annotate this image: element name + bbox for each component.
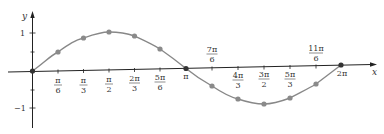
svg-text:π: π: [81, 76, 86, 85]
svg-text:2: 2: [106, 85, 111, 94]
x-tick-labels: π6 π3 π2 2π3 5π6 π 4π3 3π2 5π3 2π 7π6 11…: [54, 44, 347, 95]
tick-pi-3: π3: [80, 76, 88, 95]
svg-text:2π: 2π: [337, 69, 347, 78]
point-pi-6: [55, 49, 60, 54]
point-5pi-6: [157, 46, 162, 51]
svg-text:3: 3: [132, 84, 137, 93]
svg-text:π: π: [55, 76, 60, 85]
point-pi-3: [81, 35, 86, 40]
svg-text:11π: 11π: [308, 44, 323, 53]
tick-11pi-6: 11π6: [308, 44, 323, 63]
point-pi-2: [106, 29, 111, 34]
point-7pi-6: [209, 83, 214, 88]
tick-5pi-3: 5π3: [285, 70, 296, 89]
point-0: [30, 68, 35, 73]
x-axis: x: [8, 62, 377, 77]
svg-text:4π: 4π: [233, 71, 243, 80]
svg-text:3: 3: [235, 81, 240, 90]
point-2pi: [338, 62, 343, 67]
svg-text:7π: 7π: [207, 45, 217, 54]
svg-text:3: 3: [287, 80, 292, 89]
svg-text:5π: 5π: [285, 70, 295, 79]
svg-text:3π: 3π: [259, 70, 269, 79]
svg-text:2π: 2π: [129, 74, 139, 83]
point-5pi-3: [287, 95, 292, 100]
point-3pi-2: [261, 101, 266, 106]
y-axis-label: y: [21, 11, 28, 21]
tick-pi-6: π6: [54, 76, 62, 95]
svg-text:2: 2: [261, 80, 266, 89]
y-tick-neg1: −1: [14, 104, 26, 113]
svg-text:6: 6: [313, 54, 318, 63]
tick-2pi-3: 2π3: [129, 74, 140, 93]
point-4pi-3: [235, 96, 240, 101]
point-11pi-6: [313, 81, 318, 86]
svg-text:3: 3: [81, 86, 86, 95]
point-pi: [183, 66, 188, 71]
y-tick-1: 1: [20, 29, 25, 38]
tick-pi-2: π2: [105, 75, 113, 94]
svg-text:6: 6: [209, 55, 214, 64]
svg-text:6: 6: [157, 83, 162, 92]
tick-5pi-6: 5π6: [155, 73, 166, 92]
x-axis-label: x: [372, 67, 377, 77]
tick-3pi-2: 3π2: [259, 70, 270, 89]
point-2pi-3: [132, 33, 137, 38]
svg-text:π: π: [106, 75, 111, 84]
tick-7pi-6: 7π6: [207, 45, 218, 64]
tick-pi: π: [183, 72, 188, 81]
svg-text:6: 6: [55, 86, 60, 95]
svg-text:5π: 5π: [155, 73, 165, 82]
svg-text:π: π: [183, 72, 188, 81]
tick-4pi-3: 4π3: [233, 71, 244, 90]
tick-2pi: 2π: [337, 69, 347, 78]
sine-chart: x y 1 −1 π6 π3 π2 2π3 5π6 π 4π3 3π2 5π3: [0, 0, 384, 134]
